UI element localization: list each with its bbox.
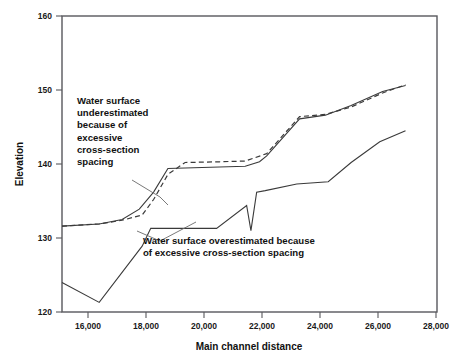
annotation-line: underestimated bbox=[77, 107, 149, 118]
x-tick-label-28000: 28,000 bbox=[423, 321, 449, 331]
y-tick-label-140: 140 bbox=[38, 159, 52, 169]
annotation-line: excessive bbox=[77, 132, 122, 143]
y-tick-label-160: 160 bbox=[38, 11, 52, 21]
y-tick-label-150: 150 bbox=[38, 85, 52, 95]
x-axis-ticks bbox=[88, 312, 436, 318]
x-tick-label-20000: 20,000 bbox=[191, 321, 217, 331]
annotation-line: of excessive cross-section spacing bbox=[143, 247, 304, 258]
x-tick-label-24000: 24,000 bbox=[307, 321, 333, 331]
annotation-overestimated: Water surface overestimated becauseof ex… bbox=[143, 235, 315, 258]
annotation-line: Water surface overestimated because bbox=[143, 235, 315, 246]
annotation-leaders bbox=[132, 180, 196, 241]
x-tick-label-26000: 26,000 bbox=[365, 321, 391, 331]
annotation-line: Water surface bbox=[77, 95, 140, 106]
x-tick-label-22000: 22,000 bbox=[249, 321, 275, 331]
series-channel-bottom bbox=[62, 131, 406, 303]
x-axis-tick-labels: 16,000 18,000 20,000 22,000 24,000 26,00… bbox=[75, 321, 449, 331]
x-axis-title: Main channel distance bbox=[196, 341, 303, 352]
x-tick-label-18000: 18,000 bbox=[133, 321, 159, 331]
y-axis-title: Elevation bbox=[14, 142, 25, 186]
annotation-underestimated: Water surfaceunderestimatedbecause ofexc… bbox=[77, 95, 149, 167]
y-tick-label-130: 130 bbox=[38, 233, 52, 243]
y-axis-ticks bbox=[56, 16, 62, 312]
annotation-line: spacing bbox=[77, 156, 113, 167]
y-axis-tick-labels: 120 130 140 150 160 bbox=[38, 11, 52, 317]
plot-frame bbox=[62, 16, 437, 312]
y-tick-label-120: 120 bbox=[38, 307, 52, 317]
annotation-line: because of bbox=[77, 119, 128, 130]
series-water-surface-dashed bbox=[62, 85, 406, 226]
elevation-profile-chart: 120 130 140 150 160 Elevation 16,000 18,… bbox=[0, 0, 466, 355]
annotation-line: cross-section bbox=[77, 144, 140, 155]
chart-figure: 120 130 140 150 160 Elevation 16,000 18,… bbox=[0, 0, 466, 355]
x-tick-label-16000: 16,000 bbox=[75, 321, 101, 331]
